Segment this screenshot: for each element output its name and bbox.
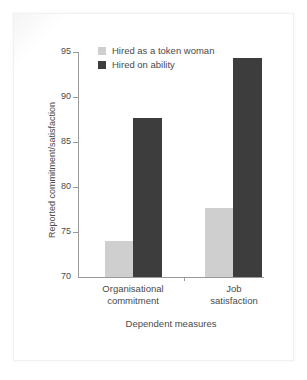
bar-organisational-commitment-token	[105, 241, 133, 277]
x-group-label-organisational-commitment: Organisational commitment	[78, 283, 188, 307]
x-tick-mark-group-separator	[184, 277, 185, 281]
bar-organisational-commitment-ability	[133, 118, 162, 277]
y-tick-70: 70	[50, 272, 71, 282]
legend-swatch-icon-dark	[98, 61, 106, 69]
y-tick-label-70: 70	[50, 272, 71, 281]
x-axis-title: Dependent measures	[78, 318, 264, 329]
y-tick-mark-85	[73, 142, 78, 143]
y-axis-title: Reported commitment/satisfaction	[47, 75, 57, 265]
y-tick-mark-95	[73, 52, 78, 53]
y-tick-95: 95	[50, 47, 71, 57]
legend-label-on-ability: Hired on ability	[112, 60, 175, 70]
chart-legend: Hired as a token woman Hired on ability	[98, 44, 214, 72]
y-tick-label-95: 95	[50, 47, 71, 56]
legend-swatch-icon-light	[98, 47, 106, 55]
x-group-label-line1: Organisational	[78, 283, 188, 295]
y-tick-mark-75	[73, 232, 78, 233]
y-tick-mark-90	[73, 97, 78, 98]
legend-item-on-ability: Hired on ability	[98, 58, 214, 72]
chart-figure: 95 90 85 80 75 70	[0, 0, 307, 380]
x-group-label-line2: satisfaction	[179, 295, 289, 307]
x-group-label-line2: commitment	[78, 295, 188, 307]
plot-area: 95 90 85 80 75 70	[0, 0, 307, 380]
x-axis-line	[78, 277, 264, 278]
y-tick-mark-80	[73, 187, 78, 188]
legend-item-token-woman: Hired as a token woman	[98, 44, 214, 58]
y-axis-line	[78, 52, 79, 278]
legend-label-token-woman: Hired as a token woman	[112, 46, 214, 56]
x-group-label-job-satisfaction: Job satisfaction	[179, 283, 289, 307]
bar-job-satisfaction-ability	[233, 58, 262, 277]
x-group-label-line1: Job	[179, 283, 289, 295]
bar-job-satisfaction-token	[205, 208, 233, 277]
